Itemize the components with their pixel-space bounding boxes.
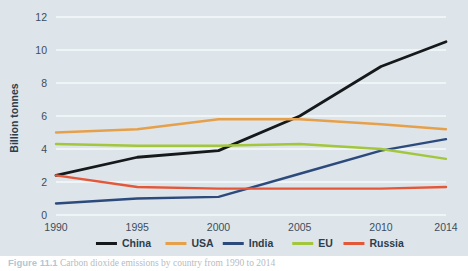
legend-label-eu: EU — [318, 237, 333, 249]
figure-caption-body: Carbon dioxide emissions by country from… — [60, 258, 275, 268]
line-chart: 024681012 Billion tonnes 199019952000200… — [0, 0, 468, 256]
chart-legend: ChinaUSAIndiaEURussia — [96, 237, 404, 249]
gridline-group — [56, 17, 446, 215]
x-axis-tick-labels: 199019952000200520102014 — [44, 221, 458, 233]
x-axis-tick-label: 2010 — [369, 221, 393, 233]
figure-caption-strip: Figure 11.1 Carbon dioxide emissions by … — [0, 256, 468, 271]
series-line-china — [56, 42, 446, 176]
x-axis-tick-label: 2005 — [288, 221, 312, 233]
y-axis-tick-label: 10 — [35, 44, 47, 56]
y-axis-tick-labels: 024681012 — [35, 11, 47, 221]
x-axis-tick-label: 2000 — [207, 221, 231, 233]
y-axis-tick-label: 12 — [35, 11, 47, 23]
legend-label-india: India — [249, 237, 274, 249]
legend-label-russia: Russia — [369, 237, 404, 249]
chart-panel: 024681012 Billion tonnes 199019952000200… — [0, 0, 468, 256]
y-axis-tick-label: 2 — [41, 176, 47, 188]
y-axis-tick-label: 8 — [41, 77, 47, 89]
y-axis-title: Billion tonnes — [8, 83, 20, 153]
x-axis-tick-label: 1995 — [126, 221, 150, 233]
series-line-usa — [56, 119, 446, 132]
y-axis-tick-label: 4 — [41, 143, 47, 155]
x-axis-tick-label: 2014 — [434, 221, 458, 233]
figure-caption-label: Figure 11.1 — [8, 257, 58, 268]
data-series-group — [56, 42, 446, 204]
x-axis-tick-label: 1990 — [44, 221, 68, 233]
series-line-eu — [56, 144, 446, 159]
figure-caption: Figure 11.1 Carbon dioxide emissions by … — [8, 257, 275, 268]
legend-label-usa: USA — [191, 237, 214, 249]
y-axis-tick-label: 6 — [41, 110, 47, 122]
legend-label-china: China — [122, 237, 151, 249]
y-axis-tick-label: 0 — [41, 209, 47, 221]
figure-container: 024681012 Billion tonnes 199019952000200… — [0, 0, 468, 271]
